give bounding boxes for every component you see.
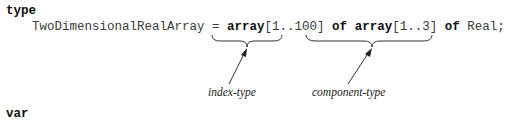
component-type-arrow — [348, 52, 369, 84]
index-type-arrow — [229, 52, 245, 84]
component-type-label: component-type — [312, 86, 385, 98]
of-keyword-inner: of — [445, 20, 460, 34]
component-type-brace — [306, 35, 432, 47]
index-type-brace — [212, 35, 282, 47]
index-type-label: index-type — [208, 86, 256, 98]
var-keyword-text: var — [6, 107, 29, 121]
element-type: Real; — [467, 20, 505, 34]
var-keyword: var — [6, 107, 29, 121]
index-type-arrowhead — [241, 48, 247, 57]
